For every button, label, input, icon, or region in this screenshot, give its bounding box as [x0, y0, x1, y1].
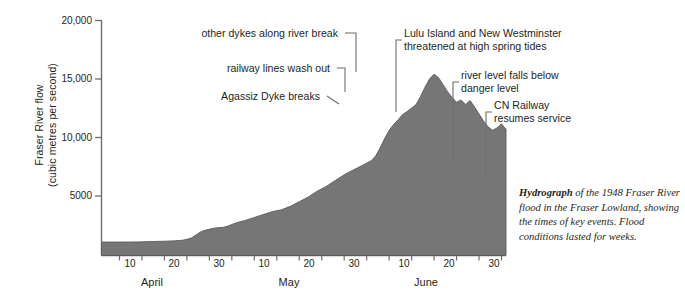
x-axis-month-may: May — [279, 276, 300, 288]
x-axis-month-june: June — [414, 276, 438, 288]
x-tick-label-april-30: 30 — [213, 258, 224, 269]
figure-caption: Hydrograph of the 1948 Fraser River floo… — [519, 186, 685, 244]
x-tick-label-june-20: 20 — [443, 258, 454, 269]
x-axis-month-april: April — [141, 276, 163, 288]
annotation-river-level-falls: river level falls below danger level — [461, 69, 559, 94]
x-tick-label-may-20: 20 — [303, 258, 314, 269]
leader-lulu — [396, 40, 402, 112]
annotation-lulu-island-threatened: Lulu Island and New Westminster threaten… — [404, 27, 562, 52]
x-tick-label-april-10: 10 — [124, 258, 135, 269]
leader-other-dykes — [345, 33, 356, 72]
x-tick-label-may-10: 10 — [258, 258, 269, 269]
y-tick-marks — [95, 21, 102, 197]
x-tick-label-may-30: 30 — [348, 258, 359, 269]
annotation-cn-railway-resumes: CN Railway resumes service — [494, 99, 571, 124]
caption-lead: Hydrograph — [519, 187, 573, 198]
annotation-other-dykes-break: other dykes along river break — [201, 27, 338, 40]
hydrograph-plot — [0, 0, 685, 303]
annotation-agassiz-dyke-breaks: Agassiz Dyke breaks — [221, 90, 320, 103]
x-tick-label-june-10: 10 — [398, 258, 409, 269]
leader-railway — [337, 68, 345, 92]
x-tick-label-april-20: 20 — [168, 258, 179, 269]
annotation-railway-lines-wash-out: railway lines wash out — [227, 62, 330, 75]
x-tick-label-june-30: 30 — [488, 258, 499, 269]
leader-agassiz — [327, 96, 339, 104]
hydrograph-figure: Fraser River flow (cubic metres per seco… — [0, 0, 685, 303]
